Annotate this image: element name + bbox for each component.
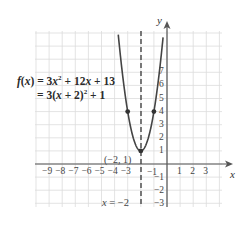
x-tick-label: 1 [177, 166, 182, 176]
y-tick-label: 1 [159, 145, 164, 155]
y-axis-label: y [157, 14, 162, 26]
x-tick-label: −4 [108, 166, 118, 176]
y-tick-label: 2 [159, 132, 164, 142]
x-tick-label: 2 [190, 166, 195, 176]
y-tick-label: 6 [159, 79, 164, 89]
data-point [152, 109, 157, 114]
x-tick-label: −5 [95, 166, 105, 176]
y-tick-label: −2 [154, 185, 164, 195]
y-tick-label: 5 [159, 93, 164, 103]
y-tick-label: −3 [154, 198, 164, 208]
equation-line-1: f(x) = 3x2 + 12x + 13 [17, 74, 115, 87]
axis-of-symmetry-label: x = −2 [102, 197, 129, 208]
x-tick-label: −8 [55, 166, 65, 176]
data-point [125, 109, 130, 114]
y-tick-label: 7 [159, 66, 164, 76]
equation-line-2: = 3(x + 2)2 + 1 [37, 88, 105, 101]
y-tick-label: −1 [154, 172, 164, 182]
x-tick-label: 3 [203, 166, 208, 176]
x-tick-label: −7 [68, 166, 78, 176]
y-tick-label: 3 [159, 119, 164, 129]
x-tick-label: −6 [81, 166, 91, 176]
data-point [138, 149, 143, 154]
x-tick-label: −3 [121, 166, 131, 176]
x-axis-label: x [230, 168, 235, 180]
y-tick-label: 4 [159, 106, 164, 116]
vertex-label: (−2, 1) [104, 154, 131, 165]
x-tick-label: −9 [42, 166, 52, 176]
